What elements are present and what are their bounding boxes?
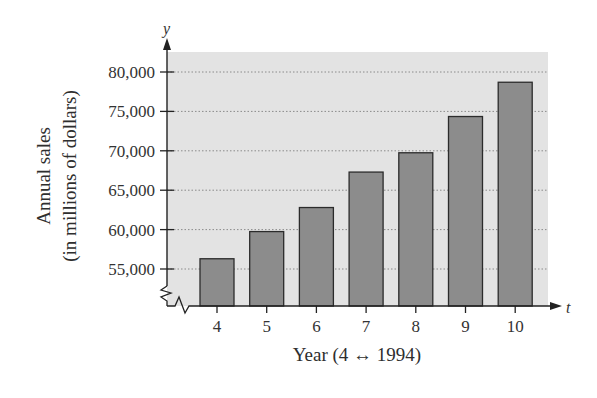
y-tick-label: 80,000 — [108, 63, 155, 82]
y-axis-title-line1: Annual sales — [33, 127, 54, 225]
x-tick-label: 9 — [461, 317, 470, 336]
y-tick-label: 65,000 — [108, 181, 155, 200]
bar — [250, 232, 284, 306]
y-axis-variable: y — [161, 20, 171, 38]
bar — [498, 82, 532, 306]
x-tick-label: 10 — [507, 317, 524, 336]
bar-chart: 55,00060,00065,00070,00075,00080,000 456… — [0, 0, 597, 398]
x-axis-title: Year (4 ↔ 1994) — [293, 344, 421, 366]
y-ticks: 55,00060,00065,00070,00075,00080,000 — [108, 63, 174, 279]
x-tick-label: 5 — [262, 317, 271, 336]
x-axis-arrow-icon — [550, 302, 562, 310]
bar — [349, 172, 383, 306]
x-tick-label: 7 — [362, 317, 371, 336]
y-tick-label: 60,000 — [108, 221, 155, 240]
y-tick-label: 55,000 — [108, 260, 155, 279]
bar — [299, 208, 333, 306]
bar — [399, 153, 433, 306]
x-axis-variable: t — [566, 299, 571, 316]
x-ticks: 45678910 — [213, 306, 524, 336]
y-tick-label: 75,000 — [108, 102, 155, 121]
x-tick-label: 6 — [312, 317, 321, 336]
y-axis-title-line2: (in millions of dollars) — [59, 90, 81, 262]
bar — [449, 117, 483, 306]
y-axis-arrow-icon — [163, 38, 171, 50]
y-tick-label: 70,000 — [108, 142, 155, 161]
x-tick-label: 8 — [412, 317, 421, 336]
x-tick-label: 4 — [213, 317, 222, 336]
bar — [200, 259, 234, 306]
